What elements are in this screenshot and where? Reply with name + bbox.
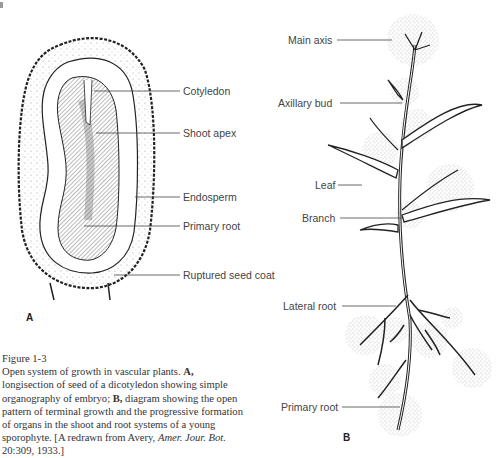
- label-ruptured-seed-coat: Ruptured seed coat: [183, 269, 275, 281]
- label-main-axis: Main axis: [288, 34, 332, 46]
- label-cotyledon: Cotyledon: [183, 85, 230, 97]
- figure-caption: Figure 1-3 Open system of growth in vasc…: [2, 352, 247, 458]
- label-leaf: Leaf: [315, 179, 335, 191]
- caption-b-ref: B,: [113, 393, 123, 404]
- caption-text-4: 20:309, 1933.]: [2, 445, 64, 456]
- panel-b-label: B: [343, 432, 350, 443]
- caption-journal: Amer. Jour. Bot.: [158, 432, 226, 443]
- label-primary-root-b: Primary root: [281, 401, 338, 413]
- plant-drawing: [328, 14, 492, 437]
- label-endosperm: Endosperm: [183, 191, 237, 203]
- seed-drawing: [19, 38, 155, 300]
- label-shoot-apex: Shoot apex: [183, 127, 236, 139]
- caption-title: Figure 1-3: [2, 352, 247, 365]
- label-lateral-root: Lateral root: [283, 300, 336, 312]
- panel-a-label: A: [26, 312, 33, 323]
- caption-a-ref: A,: [183, 366, 193, 377]
- caption-text-1: Open system of growth in vascular plants…: [2, 366, 183, 377]
- label-axillary-bud: Axillary bud: [278, 97, 332, 109]
- label-branch: Branch: [302, 212, 335, 224]
- label-primary-root-a: Primary root: [183, 220, 240, 232]
